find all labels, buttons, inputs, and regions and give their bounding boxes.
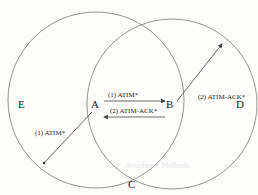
msg-label-atimack-2: (2) ATIM-ACK* — [110, 107, 158, 115]
node-D: D — [236, 98, 244, 110]
msg-label-atim-edge: (1) ATIM* — [35, 129, 66, 137]
background-text: Avoidance Methods — [125, 161, 189, 170]
diagram-canvas: Avoidance Methods (1) ATIM* (2) ATIM-ACK… — [0, 0, 258, 195]
msg-label-atim-1: (1) ATIM* — [108, 91, 139, 99]
arrow-a-to-edge — [44, 112, 92, 163]
node-C: C — [128, 178, 135, 190]
edge-point-a — [43, 162, 45, 164]
node-E: E — [18, 98, 25, 110]
diagram-figure: Avoidance Methods (1) ATIM* (2) ATIM-ACK… — [0, 0, 258, 195]
node-A: A — [91, 98, 99, 110]
node-B: B — [166, 98, 173, 110]
